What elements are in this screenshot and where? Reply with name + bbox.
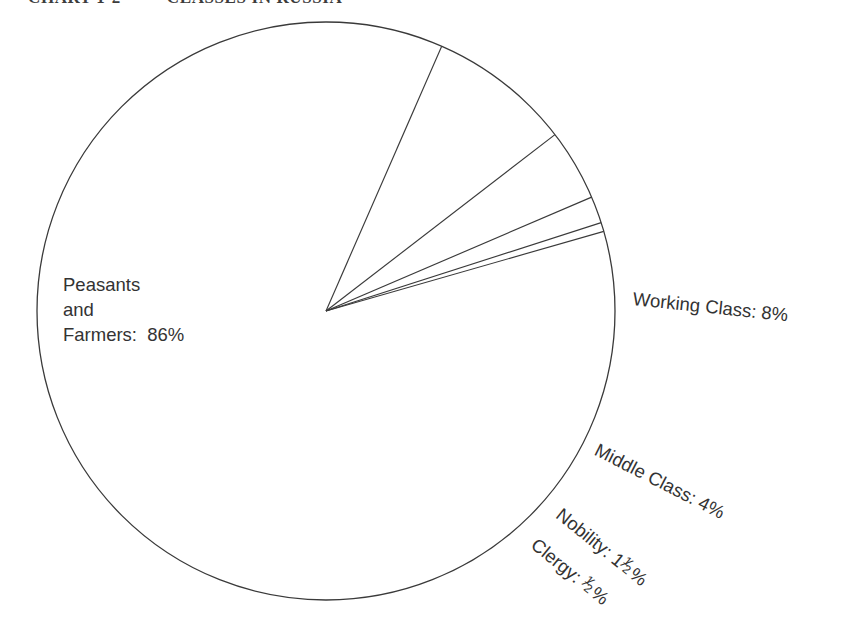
pie-chart-figure: CHART 1-2CLASSES IN RUSSIA PeasantsandFa…: [0, 0, 841, 629]
slice-label-peasants-line3: Farmers: 86%: [63, 324, 184, 345]
slice-label-peasants-line1: Peasants: [63, 274, 140, 295]
slice-label-peasants: PeasantsandFarmers: 86%: [63, 272, 184, 347]
slice-label-peasants-line2: and: [63, 299, 94, 320]
